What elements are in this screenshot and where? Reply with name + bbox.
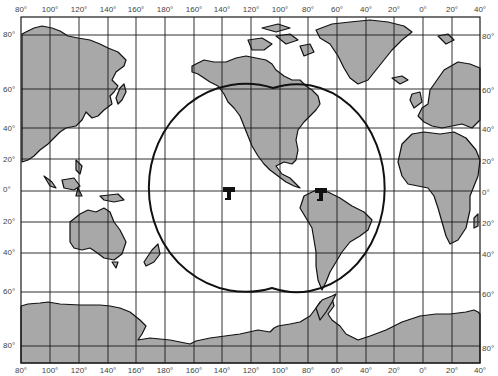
lon-label-top: 20° [388, 5, 400, 14]
lon-label-top: 80° [302, 5, 314, 14]
lat-label-right: 40° [482, 250, 494, 259]
lat-label-right: 20° [482, 219, 494, 228]
lon-label-bottom: 160° [186, 366, 203, 375]
lon-label-bottom: 180° [157, 366, 174, 375]
lon-label-bottom: 60° [331, 366, 343, 375]
lat-label-left: 60° [3, 287, 15, 296]
lat-label-left: 20° [3, 217, 15, 226]
lon-label-top: 140° [100, 5, 117, 14]
lon-label-bottom: 120° [243, 366, 260, 375]
lon-label-bottom: 0° [419, 366, 427, 375]
lon-label-bottom: 40° [360, 366, 372, 375]
lon-label-top: 20° [446, 5, 458, 14]
lat-label-right: 80° [482, 32, 494, 41]
lon-label-bottom: 100° [42, 366, 59, 375]
lon-label-bottom: 160° [128, 366, 145, 375]
lat-label-right: 40° [482, 125, 494, 134]
lon-label-top: 40° [360, 5, 372, 14]
lon-label-bottom: 40° [474, 366, 486, 375]
lat-label-left: 0° [3, 185, 11, 194]
lat-label-right: 80° [482, 344, 494, 353]
lon-label-top: 0° [419, 5, 427, 14]
lon-label-top: 160° [128, 5, 145, 14]
lon-label-top: 80° [15, 5, 27, 14]
lon-label-bottom: 100° [272, 366, 289, 375]
lon-label-top: 40° [474, 5, 486, 14]
lat-label-left: 60° [3, 85, 15, 94]
lon-label-top: 100° [42, 5, 59, 14]
lon-label-bottom: 80° [15, 366, 27, 375]
lon-label-bottom: 20° [388, 366, 400, 375]
lat-label-right: 20° [482, 157, 494, 166]
lon-label-top: 60° [331, 5, 343, 14]
lon-label-top: 100° [272, 5, 289, 14]
lon-label-top: 140° [214, 5, 231, 14]
lat-label-left: 40° [3, 124, 15, 133]
lat-label-left: 80° [3, 341, 15, 350]
lon-label-bottom: 120° [71, 366, 88, 375]
lon-label-bottom: 20° [446, 366, 458, 375]
lat-label-right: 0° [482, 188, 490, 197]
lon-label-top: 180° [157, 5, 174, 14]
world-map [0, 0, 498, 376]
lat-label-left: 40° [3, 248, 15, 257]
lon-label-bottom: 140° [214, 366, 231, 375]
lon-label-bottom: 140° [100, 366, 117, 375]
lon-label-top: 120° [243, 5, 260, 14]
lat-label-left: 80° [3, 30, 15, 39]
lat-label-right: 60° [482, 86, 494, 95]
lon-label-top: 160° [186, 5, 203, 14]
lat-label-right: 60° [482, 290, 494, 299]
lat-label-left: 20° [3, 155, 15, 164]
lon-label-bottom: 80° [302, 366, 314, 375]
lon-label-top: 120° [71, 5, 88, 14]
